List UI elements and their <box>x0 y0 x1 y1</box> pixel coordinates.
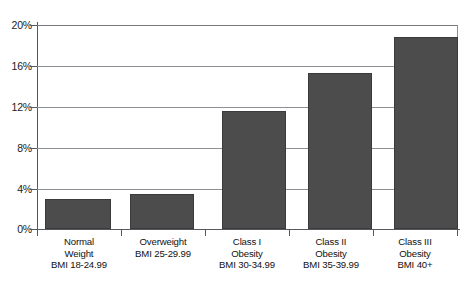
bar-class-iii-obesity <box>394 37 458 229</box>
x-category-line: Weight <box>37 248 121 260</box>
y-axis-label-16: 16% <box>0 61 32 72</box>
x-category-label-normal-weight: Normal Weight BMI 18-24.99 <box>37 236 121 271</box>
x-category-line: Obesity <box>205 248 289 260</box>
plot-area <box>37 25 457 229</box>
y-axis-label-0: 0% <box>0 224 32 235</box>
x-category-line: Overweight <box>121 236 205 248</box>
x-category-label-class-iii-obesity: Class III Obesity BMI 40+ <box>373 236 457 271</box>
x-category-label-overweight: Overweight BMI 25-29.99 <box>121 236 205 259</box>
y-axis-label-4: 4% <box>0 184 32 195</box>
x-category-line: BMI 30-34.99 <box>205 259 289 271</box>
y-axis-label-12: 12% <box>0 102 32 113</box>
x-category-line: Class II <box>289 236 373 248</box>
x-axis-line <box>34 229 460 230</box>
x-category-line: BMI 25-29.99 <box>121 248 205 260</box>
y-axis-label-20: 20% <box>0 20 32 31</box>
x-category-line: BMI 40+ <box>373 259 457 271</box>
x-category-label-class-i-obesity: Class I Obesity BMI 30-34.99 <box>205 236 289 271</box>
x-category-line: Class III <box>373 236 457 248</box>
x-category-label-class-ii-obesity: Class II Obesity BMI 35-39.99 <box>289 236 373 271</box>
x-category-line: Obesity <box>373 248 457 260</box>
x-tick-mark-3 <box>289 229 290 236</box>
bar-normal-weight <box>45 199 111 229</box>
bar-chart: 20% 16% 12% 8% 4% 0% <box>0 0 469 281</box>
x-category-line: Obesity <box>289 248 373 260</box>
x-tick-mark-0 <box>37 229 38 236</box>
x-tick-mark-2 <box>205 229 206 236</box>
x-category-line: BMI 18-24.99 <box>37 259 121 271</box>
x-tick-mark-5 <box>457 229 458 236</box>
bar-class-i-obesity <box>222 111 286 229</box>
bar-class-ii-obesity <box>308 73 372 229</box>
y-axis-label-8: 8% <box>0 143 32 154</box>
x-category-line: Normal <box>37 236 121 248</box>
bar-overweight <box>130 194 194 229</box>
x-category-line: Class I <box>205 236 289 248</box>
x-tick-mark-1 <box>121 229 122 236</box>
x-tick-mark-4 <box>373 229 374 236</box>
x-category-line: BMI 35-39.99 <box>289 259 373 271</box>
gridline-20 <box>37 25 457 26</box>
